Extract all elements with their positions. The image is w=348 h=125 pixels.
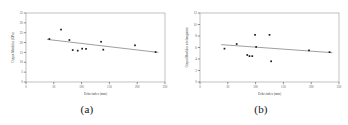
chart-a-y-tick-label: 5 [21,70,23,74]
chart-a-y-tick-label: 30 [20,21,24,25]
chart-a-y-tick-label: 35 [20,11,24,15]
chart-b-y-tick-label: 6 [195,46,197,50]
chart-b-x-axis-label: Echo index (mm) [258,92,281,96]
scatter-chart-a: 05010015020025005101520253035Echo index … [0,0,174,104]
chart-a-y-tick-label: 0 [21,80,23,84]
chart-a-y-tick-label: 20 [20,41,24,45]
chart-a-x-tick-label: 0 [25,85,27,89]
chart-a-data-point [60,29,62,31]
chart-b-data-point [236,43,238,45]
chart-a-y-tick-label: 25 [20,31,24,35]
chart-b-data-point [270,60,272,62]
chart-a-x-tick-label: 250 [163,85,168,89]
chart-a-x-tick-label: 100 [79,85,84,89]
chart-a-data-point [100,41,102,43]
chart-a-data-point [155,51,157,53]
chart-b-x-tick-label: 150 [281,85,286,89]
chart-b-x-tick-label: 100 [253,85,258,89]
chart-a-x-axis-label: Echo index (mm) [84,92,107,96]
chart-b-x-tick-label: 250 [337,85,342,89]
chart-b-data-point [246,54,248,56]
chart-b-data-point [329,51,331,53]
chart-b-x-tick-label: 50 [226,85,230,89]
chart-b-x-tick-label: 200 [309,85,314,89]
chart-a-x-tick-label: 50 [52,85,56,89]
chart-b-data-point [269,34,271,36]
chart-b-y-axis-label: Output Modulus of elongation [185,27,189,67]
chart-b-y-tick-label: 4 [195,57,197,61]
chart-b-data-point [251,55,253,57]
chart-b-data-point [249,55,251,57]
chart-b-x-tick-label: 0 [199,85,201,89]
panel-a-caption: (a) [0,103,174,115]
chart-a-data-point [102,49,104,51]
chart-b-data-point [224,48,226,50]
scatter-chart-b: 050100150200250024681012Echo index (mm)O… [174,0,348,104]
chart-a-data-point [134,44,136,46]
chart-a-x-tick-label: 150 [107,85,112,89]
chart-a-y-tick-label: 15 [20,51,24,55]
chart-b-data-point [308,50,310,52]
chart-a-data-point [69,39,71,41]
chart-a-y-axis-label: Output Modulus (GPa) [11,32,15,62]
chart-a-x-tick-label: 200 [135,85,140,89]
chart-b-trendline [221,45,332,53]
chart-b-y-tick-label: 10 [194,23,198,27]
chart-a-data-point [49,38,51,40]
panel-a: 05010015020025005101520253035Echo index … [0,0,174,125]
chart-b-y-tick-label: 2 [195,69,197,73]
figure-container: 05010015020025005101520253035Echo index … [0,0,348,125]
panel-b-plot: 050100150200250024681012Echo index (mm)O… [174,0,348,104]
chart-a-y-tick-label: 10 [20,60,24,64]
chart-a-data-point [77,50,79,52]
chart-a-data-point [85,48,87,50]
chart-b-y-tick-label: 12 [194,11,198,15]
panel-b-caption: (b) [174,103,348,115]
chart-b-data-point [254,34,256,36]
chart-b-plot-frame [200,13,339,82]
chart-b-y-tick-label: 8 [195,34,197,38]
chart-a-plot-frame [26,13,165,82]
panel-a-plot: 05010015020025005101520253035Echo index … [0,0,174,104]
chart-a-data-point [72,49,74,51]
chart-b-data-point [255,46,257,48]
chart-b-y-tick-label: 0 [195,80,197,84]
chart-a-data-point [81,48,83,50]
panel-b: 050100150200250024681012Echo index (mm)O… [174,0,348,125]
